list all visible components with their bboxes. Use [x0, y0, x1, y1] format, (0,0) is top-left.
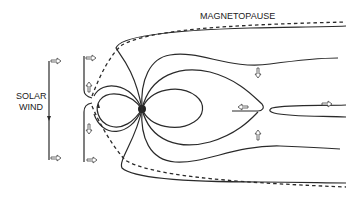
solar-wind-label-line1: SOLAR [16, 91, 47, 101]
right-arrow-icon [86, 55, 96, 61]
field-line-nightside-inner [142, 89, 203, 127]
down-arrow-icon [255, 68, 261, 78]
up-arrow-icon [255, 130, 261, 140]
field-line-tail-upper-2 [142, 54, 338, 109]
field-line-tail-lower-2 [142, 109, 340, 162]
solar-wind-label-line2: WIND [19, 102, 43, 112]
left-arrow-icon [238, 104, 248, 110]
right-arrow-icon [322, 101, 332, 107]
magnetopause-boundary-lower [92, 106, 346, 187]
field-line-tail-lower-3 [121, 109, 346, 183]
magnetopause-label: MAGNETOPAUSE [200, 11, 275, 21]
down-arrow-icon [47, 116, 51, 121]
down-arrow-icon [86, 124, 92, 134]
right-arrow-icon [51, 155, 61, 161]
field-line-tail-lower-1 [142, 109, 258, 145]
magnetosphere-diagram: MAGNETOPAUSE SOLAR WIND [0, 0, 359, 203]
field-line-tail-x-right [270, 105, 346, 117]
imf-line-solar-wind [47, 61, 51, 160]
right-arrow-icon [51, 58, 61, 64]
up-arrow-icon [86, 82, 92, 92]
magnetopause-boundary-upper [92, 22, 346, 96]
right-arrow-icon [87, 157, 97, 163]
field-line-dayside-inner [97, 94, 142, 127]
